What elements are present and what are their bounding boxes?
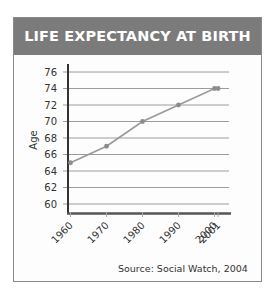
data-point xyxy=(68,160,73,165)
line-chart: 606264666870727476 196019701980199020002… xyxy=(0,0,273,295)
x-tick-label: 1980 xyxy=(121,220,147,246)
y-tick-label: 66 xyxy=(44,149,57,160)
y-tick-label: 72 xyxy=(44,100,57,111)
y-tick-label: 68 xyxy=(44,133,57,144)
data-point xyxy=(140,119,145,124)
x-tick-label: 1990 xyxy=(157,220,183,246)
y-tick-label: 74 xyxy=(44,83,57,94)
source-note: Source: Social Watch, 2004 xyxy=(118,263,248,274)
y-tick-label: 64 xyxy=(44,166,57,177)
x-tick-label: 2001 xyxy=(197,220,223,246)
y-tick-label: 60 xyxy=(44,199,57,210)
data-point xyxy=(176,103,181,108)
y-axis-ticks: 606264666870727476 xyxy=(44,67,57,210)
data-line xyxy=(71,89,219,163)
x-tick-label: 1960 xyxy=(49,220,75,246)
gridlines xyxy=(63,72,229,204)
x-tick-label: 1970 xyxy=(85,220,111,246)
y-tick-label: 70 xyxy=(44,116,57,127)
x-axis-ticks: 196019701980199020002001 xyxy=(49,212,222,245)
y-tick-label: 76 xyxy=(44,67,57,78)
data-point xyxy=(216,86,221,91)
y-axis-label: Age xyxy=(28,130,39,149)
y-tick-label: 62 xyxy=(44,182,57,193)
data-point xyxy=(104,144,109,149)
